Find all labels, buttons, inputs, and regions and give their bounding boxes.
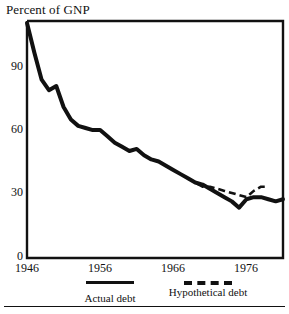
plot-frame: [27, 21, 283, 258]
legend-label-hypothetical-debt: Hypothetical debt: [148, 286, 268, 298]
y-tick-label-30: 30: [1, 185, 23, 200]
x-tick-label-1946: 1946: [7, 261, 47, 276]
legend-swatch-dashed: [184, 281, 232, 285]
x-tick-label-1956: 1956: [80, 261, 120, 276]
legend-entry-hypothetical-debt: Hypothetical debt: [148, 279, 268, 298]
legend-swatch-solid: [86, 281, 134, 291]
legend-label-actual-debt: Actual debt: [60, 292, 160, 304]
y-tick-label-90: 90: [1, 59, 23, 74]
chart-legend: Actual debt Hypothetical debt: [0, 279, 289, 303]
bottom-divider-rule: [4, 306, 285, 307]
chart-figure: Percent of GNP 90 60 30 0 1946 1956 1966…: [0, 0, 289, 314]
x-tick-label-1966: 1966: [153, 261, 193, 276]
series-hypothetical-debt: [188, 178, 268, 197]
series-actual-debt: [27, 23, 283, 208]
y-tick-label-60: 60: [1, 122, 23, 137]
x-tick-label-1976: 1976: [226, 261, 266, 276]
legend-entry-actual-debt: Actual debt: [60, 279, 160, 304]
